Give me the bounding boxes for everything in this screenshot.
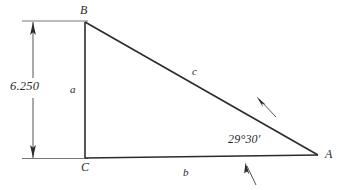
figure-svg xyxy=(0,0,342,190)
side-label-a: a xyxy=(70,84,76,95)
vertex-label-b: B xyxy=(80,4,87,16)
side-label-c: c xyxy=(192,66,197,77)
leader-line-base xyxy=(247,166,256,185)
triangle-side-b xyxy=(85,155,318,158)
vertex-label-c: C xyxy=(81,161,89,173)
side-label-b: b xyxy=(183,167,189,178)
leader-arrow-hypotenuse-icon xyxy=(257,97,266,108)
vertex-label-a: A xyxy=(325,148,332,160)
angle-label: 29°30′ xyxy=(228,133,261,145)
dimension-value-label: 6.250 xyxy=(10,80,39,93)
triangle-diagram: B C A a b c 6.250 29°30′ xyxy=(0,0,342,190)
triangle-side-c-hypotenuse xyxy=(85,22,318,155)
